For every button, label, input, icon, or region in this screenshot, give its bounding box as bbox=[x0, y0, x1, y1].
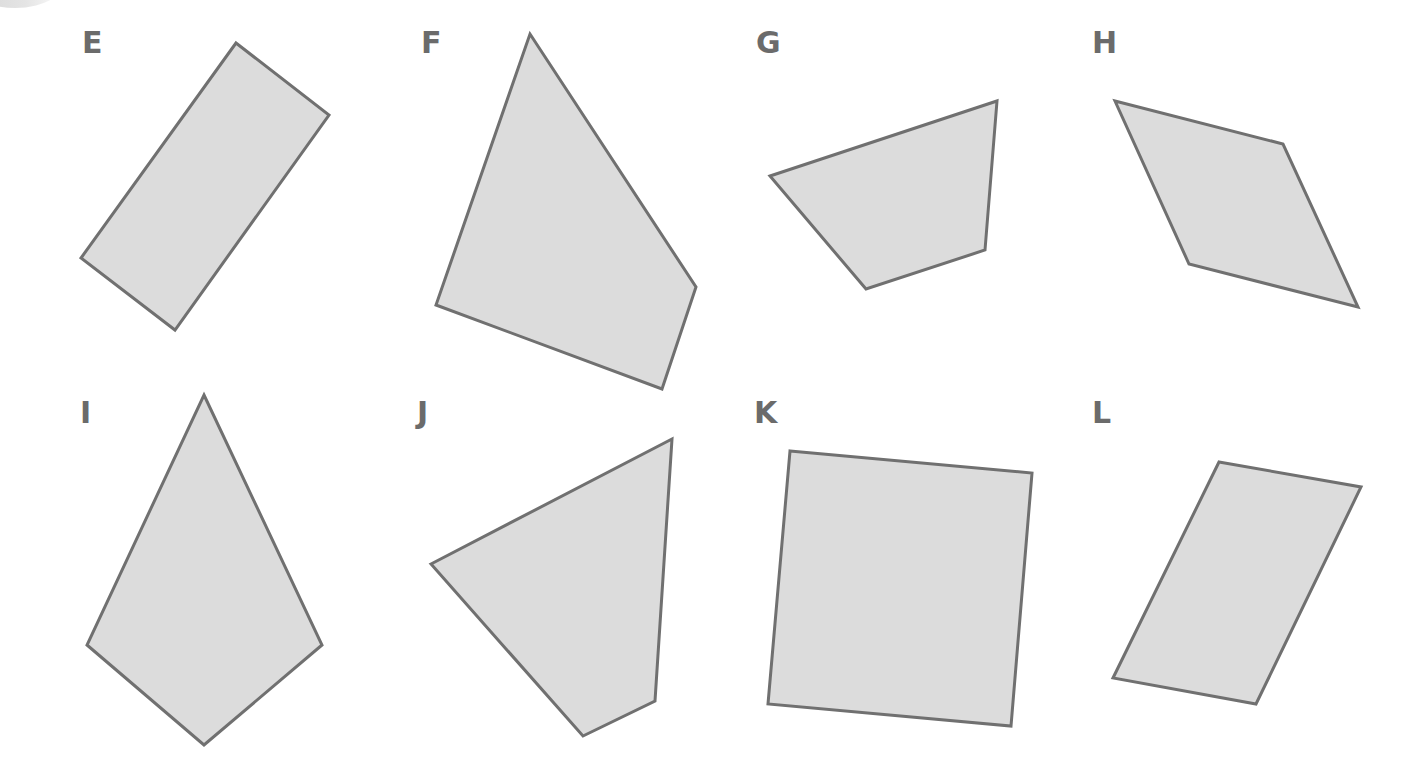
shape-label-k: K bbox=[754, 398, 777, 428]
shape-e bbox=[81, 43, 329, 330]
shape-l bbox=[1113, 462, 1361, 704]
shape-label-l: L bbox=[1092, 398, 1111, 428]
shape-label-h: H bbox=[1092, 28, 1117, 58]
shapes-canvas bbox=[0, 0, 1425, 770]
shape-f bbox=[436, 34, 696, 389]
shape-h bbox=[1115, 101, 1358, 307]
shape-g bbox=[770, 101, 997, 289]
shape-label-i: I bbox=[80, 398, 91, 428]
shape-label-g: G bbox=[756, 28, 781, 58]
shape-label-f: F bbox=[421, 28, 442, 58]
shape-label-e: E bbox=[82, 28, 103, 58]
shape-j bbox=[431, 439, 672, 736]
shape-k bbox=[768, 451, 1032, 726]
shape-i bbox=[87, 395, 322, 745]
shape-label-j: J bbox=[417, 398, 428, 428]
